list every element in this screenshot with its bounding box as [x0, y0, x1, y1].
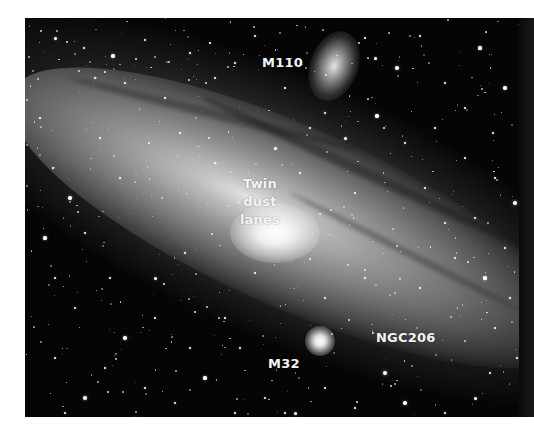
- star: [424, 187, 426, 189]
- star: [371, 97, 373, 99]
- star: [172, 274, 173, 275]
- star: [239, 347, 242, 350]
- star: [284, 412, 286, 414]
- star: [417, 376, 418, 377]
- star: [32, 70, 34, 72]
- star: [490, 67, 492, 69]
- star: [319, 213, 321, 215]
- star: [353, 217, 355, 219]
- star: [37, 206, 39, 208]
- star: [404, 142, 406, 144]
- star: [104, 367, 106, 369]
- star: [392, 228, 394, 230]
- star: [500, 194, 501, 195]
- star: [179, 132, 182, 135]
- star: [48, 324, 49, 325]
- star: [175, 370, 177, 372]
- star: [291, 262, 292, 263]
- star: [432, 171, 434, 173]
- star: [214, 162, 216, 164]
- star: [411, 365, 413, 367]
- star: [444, 82, 447, 85]
- star: [214, 335, 215, 336]
- star: [404, 360, 405, 361]
- star: [402, 135, 403, 136]
- star: [405, 319, 406, 320]
- star: [351, 214, 353, 216]
- satellite-galaxy-m110: [299, 24, 369, 108]
- star: [271, 380, 273, 382]
- star: [144, 387, 147, 390]
- star: [357, 121, 358, 122]
- label-line: lanes: [230, 211, 290, 229]
- star: [451, 359, 452, 360]
- star: [236, 398, 238, 400]
- star: [418, 247, 419, 248]
- star: [464, 340, 466, 342]
- star: [28, 56, 30, 58]
- star: [481, 302, 482, 303]
- star: [211, 233, 212, 234]
- star: [442, 340, 443, 341]
- star: [274, 147, 277, 150]
- star: [115, 358, 116, 359]
- star: [324, 297, 326, 299]
- star: [481, 319, 482, 320]
- star: [487, 222, 489, 224]
- star: [422, 159, 423, 160]
- star: [459, 65, 460, 66]
- star: [26, 185, 28, 187]
- star: [345, 121, 346, 122]
- star: [268, 110, 270, 112]
- star: [467, 261, 469, 263]
- star: [308, 387, 310, 389]
- star: [448, 229, 449, 230]
- star: [68, 196, 72, 200]
- star: [436, 141, 437, 142]
- star: [113, 68, 115, 70]
- star: [195, 273, 197, 275]
- star: [66, 41, 68, 43]
- star: [30, 85, 31, 86]
- star: [214, 77, 216, 79]
- star: [385, 125, 387, 127]
- star: [462, 304, 464, 306]
- star: [29, 25, 31, 27]
- star: [274, 264, 276, 266]
- star: [457, 104, 459, 106]
- star: [64, 412, 67, 415]
- star: [456, 252, 457, 253]
- label-m32: M32: [268, 355, 300, 373]
- star: [112, 365, 113, 366]
- star: [140, 332, 142, 334]
- star: [482, 393, 483, 394]
- star: [171, 336, 173, 338]
- star: [328, 234, 330, 236]
- star: [314, 71, 315, 72]
- star: [83, 396, 87, 400]
- star: [63, 217, 65, 219]
- star: [503, 86, 507, 90]
- star: [174, 402, 177, 405]
- star: [501, 112, 502, 113]
- star: [414, 37, 415, 38]
- star: [367, 57, 369, 59]
- star: [197, 64, 198, 65]
- star: [394, 383, 396, 385]
- star: [464, 157, 466, 159]
- star: [189, 52, 192, 55]
- star: [115, 353, 116, 354]
- star: [193, 76, 194, 77]
- star: [62, 348, 63, 349]
- star: [275, 337, 277, 339]
- star: [455, 110, 457, 112]
- star: [504, 247, 507, 250]
- star: [163, 156, 164, 157]
- star: [277, 49, 278, 50]
- star: [180, 300, 181, 301]
- star: [306, 52, 308, 54]
- star: [219, 292, 220, 293]
- star: [347, 171, 348, 172]
- star: [244, 370, 245, 371]
- star: [144, 39, 146, 41]
